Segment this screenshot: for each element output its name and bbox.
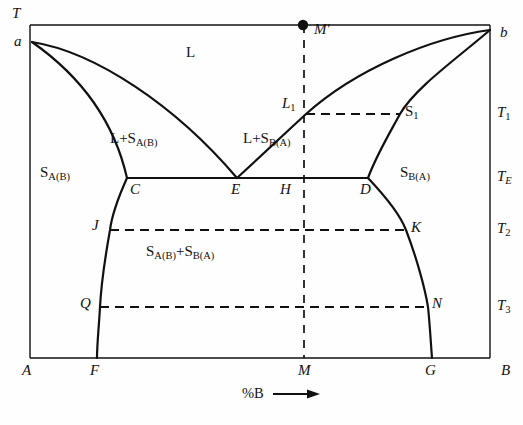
phase-label-liquid-plus-s-ba: L+SB(A): [243, 131, 291, 148]
composition-tick-m: M: [298, 363, 311, 378]
point-label-m-prime: M′: [314, 22, 330, 37]
temperature-tick-t3: T3: [497, 298, 511, 315]
liquidus-left-curve: [32, 42, 237, 178]
composition-tick-a: A: [22, 363, 31, 378]
point-label-q: Q: [80, 296, 91, 311]
phase-label-s-ab-subscript: A(B): [48, 171, 70, 182]
point-marker-m-prime: [298, 20, 308, 30]
temperature-tick-t1: T1: [497, 105, 511, 122]
point-label-n: N: [432, 296, 442, 311]
point-label-l1: L1: [282, 96, 296, 113]
point-label-l1-subscript: 1: [290, 102, 295, 113]
temperature-tick-te: TE: [497, 169, 512, 186]
diagram-canvas: [0, 0, 523, 425]
point-label-a: a: [14, 34, 22, 49]
composition-tick-b: B: [501, 363, 510, 378]
point-label-b: b: [500, 25, 508, 40]
point-label-k: K: [411, 220, 421, 235]
phase-label-two-solids-subscript1: A(B): [154, 250, 176, 261]
phase-label-liquid-plus-s-ba-base: L+S: [243, 130, 269, 146]
solidus-left-curve: [32, 42, 127, 178]
composition-tick-f: F: [90, 363, 99, 378]
point-label-d: D: [360, 182, 371, 197]
phase-label-liquid-plus-s-ab-subscript: A(B): [136, 137, 158, 148]
phase-diagram-figure: T %B T1 TE T2 T3 A F M G B a b C E H D L…: [0, 0, 523, 425]
temperature-tick-te-subscript: E: [505, 175, 511, 186]
point-label-m-prime-base: M: [314, 21, 327, 37]
phase-label-liquid: L: [186, 45, 195, 60]
point-label-s1: S1: [405, 104, 419, 121]
phase-label-liquid-plus-s-ab: L+SA(B): [110, 131, 158, 148]
x-axis-arrow-icon: [273, 390, 320, 399]
temperature-tick-t3-subscript: 3: [505, 304, 510, 315]
point-label-e: E: [231, 182, 240, 197]
x-axis-label: %B: [242, 386, 264, 401]
phase-label-s-ab: SA(B): [40, 165, 70, 182]
point-label-h: H: [280, 182, 291, 197]
point-label-c: C: [130, 182, 140, 197]
solvus-left-curve: [97, 178, 127, 358]
temperature-tick-t2: T2: [497, 221, 511, 238]
phase-label-liquid-plus-s-ab-base: L+S: [110, 130, 136, 146]
phase-label-s-ba: SB(A): [400, 165, 430, 182]
phase-label-liquid-plus-s-ba-subscript: B(A): [269, 137, 291, 148]
phase-label-two-solids: SA(B)+SB(A): [146, 244, 214, 261]
y-axis-label: T: [12, 6, 20, 21]
temperature-tick-t1-subscript: 1: [505, 111, 510, 122]
point-label-s1-subscript: 1: [413, 110, 418, 121]
composition-tick-g: G: [425, 363, 436, 378]
phase-label-s-ba-subscript: B(A): [408, 171, 430, 182]
temperature-tick-t2-subscript: 2: [505, 227, 510, 238]
liquidus-right-curve: [237, 30, 490, 178]
point-label-j: J: [92, 218, 99, 233]
phase-label-two-solids-base2: +S: [176, 243, 193, 259]
phase-label-two-solids-subscript2: B(A): [193, 250, 215, 261]
solidus-right-curve: [368, 30, 490, 178]
solvus-right-curve: [368, 178, 432, 358]
point-label-m-prime-mark: ′: [327, 21, 330, 37]
